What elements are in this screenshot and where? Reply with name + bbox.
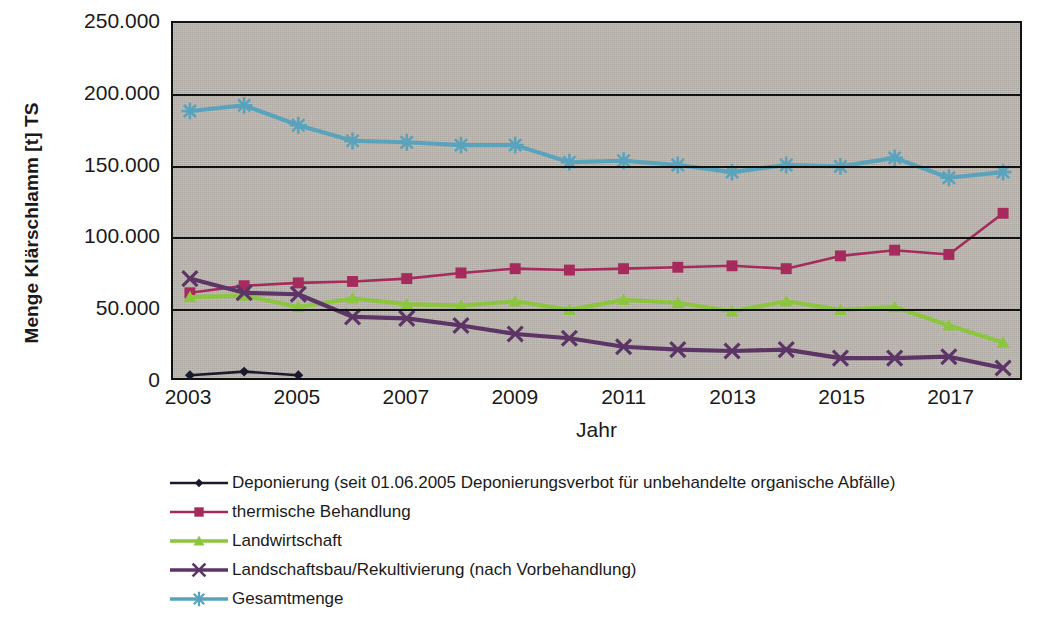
series-layer [173, 23, 1020, 378]
x-tick-label: 2003 [165, 386, 212, 408]
data-point-marker-asterisk [453, 137, 470, 154]
legend-item[interactable]: Gesamtmenge [166, 584, 1026, 613]
series-3 [182, 271, 1010, 375]
data-point-marker-square [835, 250, 846, 261]
y-tick-label: 100.000 [40, 225, 160, 246]
legend-label: thermische Behandlung [232, 503, 411, 521]
legend-item[interactable]: thermische Behandlung [166, 497, 1026, 526]
y-axis-tick-labels: 050.000100.000150.000200.000250.000 [32, 0, 160, 631]
legend-label: Landwirtschaft [232, 532, 342, 550]
data-point-marker-asterisk [181, 103, 198, 120]
chart-legend: Deponierung (seit 01.06.2005 Deponierung… [166, 468, 1026, 613]
legend-label: Deponierung (seit 01.06.2005 Deponierung… [232, 474, 895, 492]
x-tick-label: 2005 [274, 386, 321, 408]
data-point-marker-square [943, 249, 954, 260]
gridline [173, 309, 1020, 311]
data-point-marker-square [727, 260, 738, 271]
data-point-marker-square [293, 277, 304, 288]
data-point-marker-diamond [293, 370, 303, 380]
data-point-marker-asterisk [561, 154, 578, 171]
plot-area [171, 21, 1022, 380]
x-tick-label: 2009 [491, 386, 538, 408]
data-point-marker-square [618, 263, 629, 274]
x-axis-title: Jahr [171, 418, 1022, 442]
data-point-marker-square [781, 263, 792, 274]
series-4 [181, 97, 1011, 186]
data-point-marker-square [889, 245, 900, 256]
data-point-marker-asterisk [398, 134, 415, 151]
data-point-marker-asterisk [886, 149, 903, 166]
legend-marker-triangle-icon [166, 529, 232, 553]
x-tick-label: 2011 [601, 386, 646, 408]
gridline [173, 237, 1020, 239]
x-tick-label: 2007 [383, 386, 430, 408]
x-axis-tick-labels: 20032005200720092011201320152017 [171, 386, 1022, 416]
series-0 [185, 367, 303, 380]
x-tick-label: 2013 [709, 386, 756, 408]
data-point-marker-square [564, 265, 575, 276]
chart-container: Menge Klärschlamm [t] TS 050.000100.0001… [0, 0, 1046, 631]
data-point-marker-square [672, 262, 683, 273]
legend-marker-x-icon [166, 558, 232, 582]
y-tick-label: 150.000 [40, 154, 160, 175]
y-tick-label: 0 [40, 369, 160, 390]
data-point-marker-diamond [239, 367, 249, 377]
y-tick-label: 50.000 [40, 297, 160, 318]
series-1 [184, 208, 1008, 298]
legend-item[interactable]: Landwirtschaft [166, 526, 1026, 555]
data-point-marker-asterisk [192, 591, 206, 605]
data-point-marker-asterisk [290, 117, 307, 134]
data-point-marker-square [194, 507, 203, 516]
data-point-marker-asterisk [507, 137, 524, 154]
data-point-marker-asterisk [344, 132, 361, 149]
legend-item[interactable]: Landschaftsbau/Rekultivierung (nach Vorb… [166, 555, 1026, 584]
gridline [173, 94, 1020, 96]
data-point-marker-square [455, 267, 466, 278]
legend-marker-square-icon [166, 500, 232, 524]
x-tick-label: 2015 [818, 386, 865, 408]
data-point-marker-diamond [185, 370, 195, 380]
legend-marker-asterisk-icon [166, 587, 232, 611]
x-tick-label: 2017 [927, 386, 974, 408]
legend-label: Landschaftsbau/Rekultivierung (nach Vorb… [232, 561, 637, 579]
legend-item[interactable]: Deponierung (seit 01.06.2005 Deponierung… [166, 468, 1026, 497]
data-point-marker-square [401, 273, 412, 284]
legend-label: Gesamtmenge [232, 590, 344, 608]
y-tick-label: 250.000 [40, 10, 160, 31]
legend-marker-diamond-icon [166, 471, 232, 495]
data-point-marker-square [998, 208, 1009, 219]
data-point-marker-square [510, 263, 521, 274]
gridline [173, 166, 1020, 168]
data-point-marker-diamond [195, 478, 204, 487]
y-tick-label: 200.000 [40, 82, 160, 103]
data-point-marker-asterisk [940, 169, 957, 186]
data-point-marker-asterisk [236, 97, 253, 114]
data-point-marker-square [347, 276, 358, 287]
